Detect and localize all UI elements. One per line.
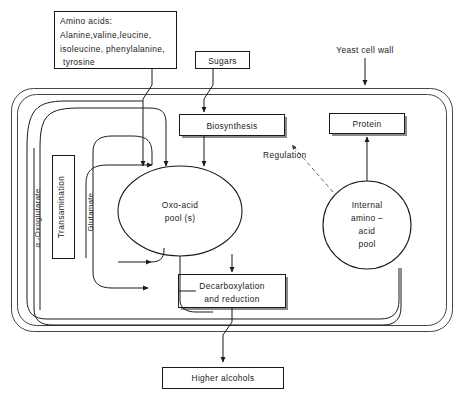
internal-pool-line-3: acid [359, 226, 376, 236]
oxo-acid-pool-line-2: pool (s) [165, 213, 196, 223]
biosynthesis-label: Biosynthesis [206, 121, 257, 131]
yeast-cell-wall-label: Yeast cell wall [336, 45, 394, 55]
pathway-diagram-figure: Amino acids: Alanine,valine,leucine, iso… [0, 0, 464, 401]
membrane-crossing-sugars [204, 69, 213, 113]
decarboxylation-box: Decarboxylation and reduction [179, 275, 289, 311]
membrane-crossing-amino-acids [143, 69, 152, 167]
decarboxylation-line-1: Decarboxylation [199, 281, 264, 291]
oxo-acid-pool-line-1: Oxo-acid [162, 200, 198, 210]
sugars-input-box: Sugars [196, 52, 250, 69]
protein-label: Protein [353, 119, 382, 129]
amino-acids-line-1: Amino acids: [60, 16, 112, 26]
edge-glutamate-lower [93, 272, 148, 288]
higher-alcohols-box: Higher alcohols [163, 368, 284, 389]
protein-box: Protein [330, 114, 408, 137]
amino-acids-input-box: Amino acids: Alanine,valine,leucine, iso… [55, 12, 177, 69]
amino-acids-line-2: Alanine,valine,leucine, [60, 30, 151, 40]
yeast-cell-wall-pointer: Yeast cell wall [336, 45, 394, 85]
internal-pool-line-4: pool [358, 239, 375, 249]
amino-acids-line-4: tyrosine [63, 57, 95, 67]
edge-decarboxylation-to-higher-alcohols [223, 308, 232, 363]
regulation-edge: Regulation [263, 145, 333, 192]
glutamate-label: Glutamate [86, 192, 95, 231]
transamination-box: Transamination [53, 156, 75, 259]
biosynthesis-box: Biosynthesis [180, 115, 288, 139]
internal-pool-line-1: Internal [352, 200, 383, 210]
regulation-label: Regulation [263, 150, 307, 160]
decarboxylation-line-2: and reduction [204, 294, 259, 304]
transamination-label: Transamination [56, 176, 66, 238]
amino-acids-line-3: isoleucine, phenylalanine, [60, 44, 165, 54]
sugars-label: Sugars [208, 56, 237, 66]
internal-pool-line-2: amino – [351, 213, 383, 223]
pathway-diagram-canvas: Amino acids: Alanine,valine,leucine, iso… [0, 0, 464, 401]
internal-amino-acid-pool-node: Internal amino – acid pool [323, 181, 411, 269]
higher-alcohols-label: Higher alcohols [192, 373, 255, 383]
oxo-acid-pool-node: Oxo-acid pool (s) [118, 166, 242, 256]
